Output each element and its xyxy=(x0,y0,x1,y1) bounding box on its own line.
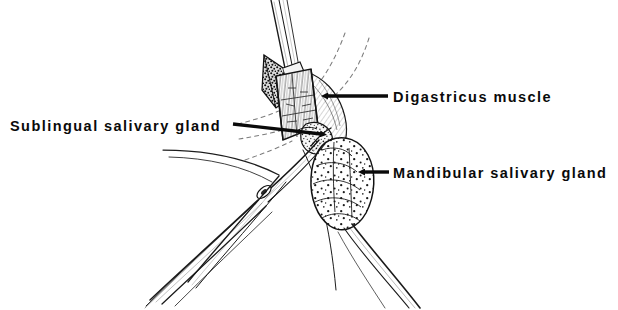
label-digastricus-muscle: Digastricus muscle xyxy=(393,89,552,105)
illustration-canvas: Sublingual salivary gland Digastricus mu… xyxy=(0,0,618,310)
mandibular-salivary-gland xyxy=(311,138,374,230)
anatomical-figure: Sublingual salivary gland Digastricus mu… xyxy=(0,0,618,310)
figure-background xyxy=(0,0,618,310)
label-mandibular-salivary-gland: Mandibular salivary gland xyxy=(393,165,607,181)
label-sublingual-salivary-gland: Sublingual salivary gland xyxy=(10,118,221,134)
